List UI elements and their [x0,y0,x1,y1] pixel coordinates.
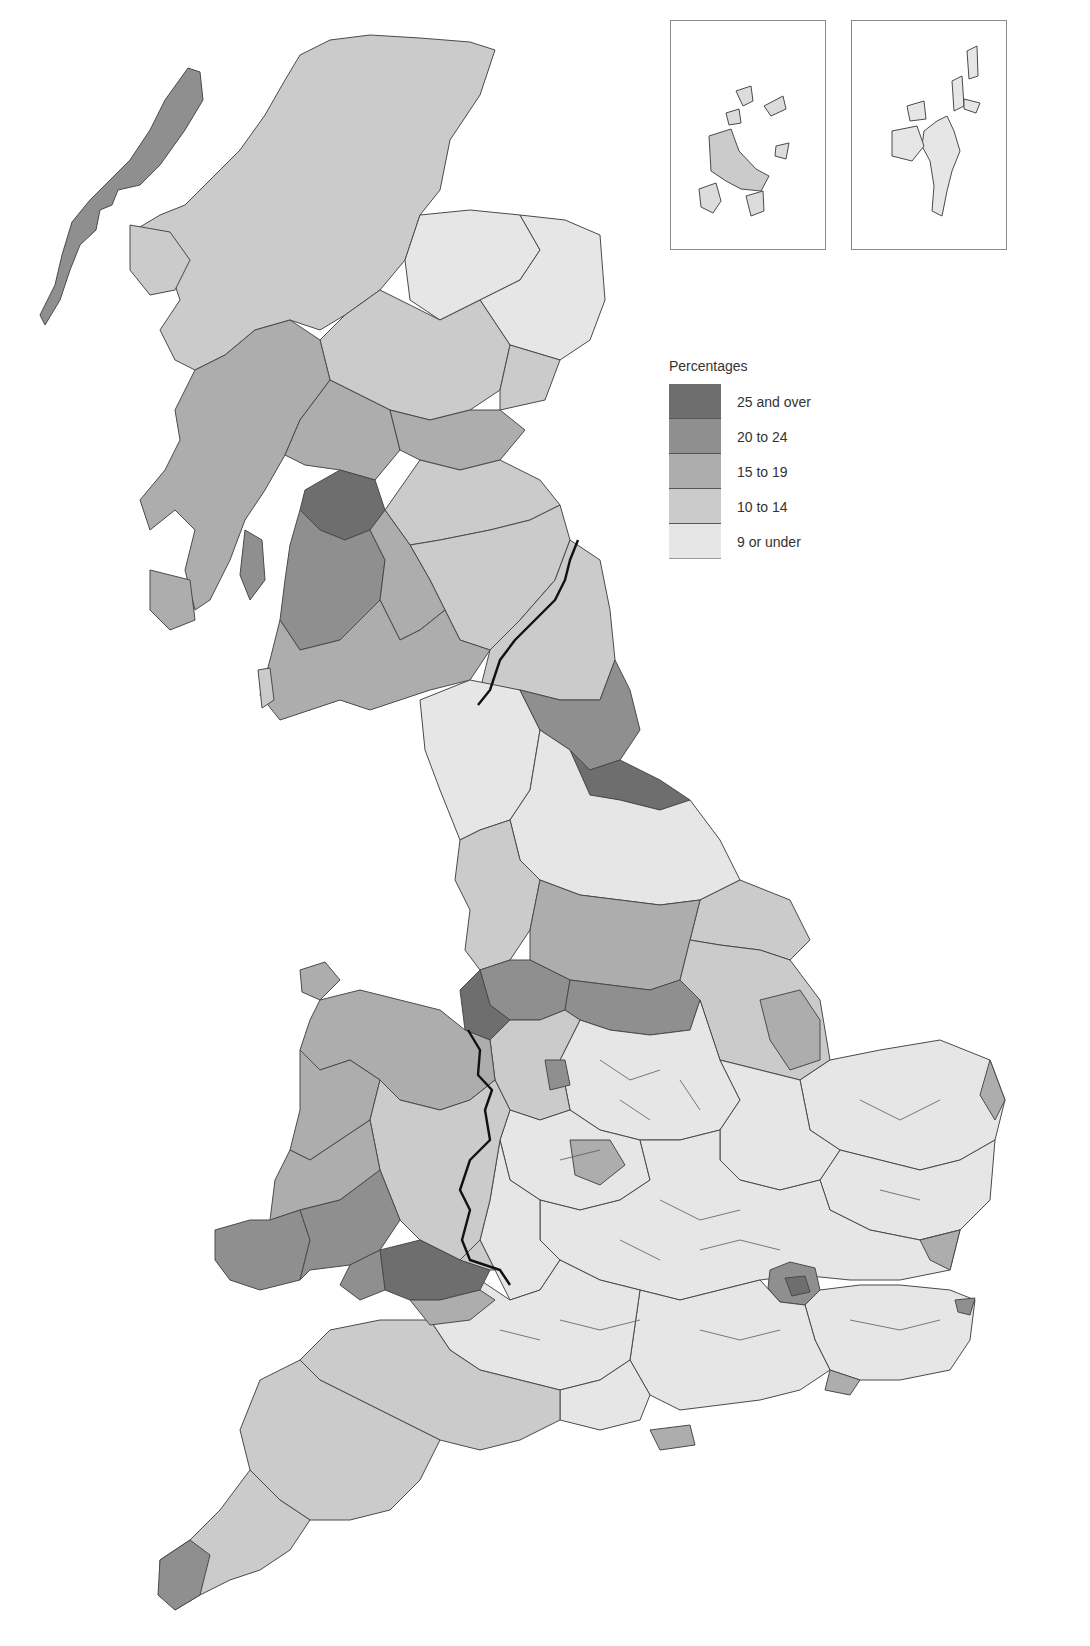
legend-swatch [669,524,721,559]
region-kent [805,1285,975,1380]
legend-label: 15 to 19 [737,464,788,480]
legend-label: 25 and over [737,394,811,410]
legend-swatch [669,489,721,524]
legend-item: 9 or under [669,524,811,559]
region-north-yorkshire [510,730,740,905]
region-anglesey [300,962,340,1000]
orkney-inset [670,20,826,250]
legend-swatch [669,419,721,454]
region-pembrokeshire [215,1210,310,1290]
region-stoke [545,1060,570,1090]
region-west-cornwall [158,1540,210,1610]
legend-item: 20 to 24 [669,419,811,454]
shetland-islands [852,21,1006,249]
legend: Percentages 25 and over 20 to 24 15 to 1… [669,358,811,559]
region-arran [240,530,265,600]
legend-title: Percentages [669,358,811,374]
legend-swatch [669,454,721,489]
legend-label: 20 to 24 [737,429,788,445]
shetland-inset [851,20,1007,250]
legend-item: 25 and over [669,384,811,419]
region-isle-of-wight [650,1425,695,1450]
legend-item: 15 to 19 [669,454,811,489]
orkney-islands [671,21,825,249]
region-fife [390,410,525,470]
legend-label: 9 or under [737,534,801,550]
legend-item: 10 to 14 [669,489,811,524]
legend-label: 10 to 14 [737,499,788,515]
legend-swatch [669,384,721,419]
